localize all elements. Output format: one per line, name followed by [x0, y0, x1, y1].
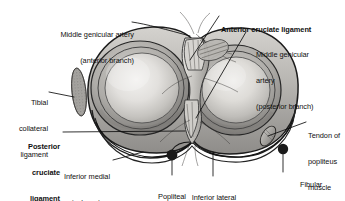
label-line: Inferior medial — [28, 173, 110, 182]
label-inferior-lateral-genicular-artery: Inferior lateral genicular artery — [170, 177, 258, 201]
label-line: Middle genicular — [256, 51, 313, 60]
leader-tibial-collateral-ligament — [49, 92, 74, 97]
label-line: (anterior branch) — [18, 57, 134, 66]
label-line: (posterior branch) — [256, 103, 313, 112]
fibular-collateral-ligament-marker-dot — [278, 144, 288, 154]
label-line: Tibial — [0, 99, 48, 108]
label-middle-genicular-artery-posterior: Middle genicular artery (posterior branc… — [256, 34, 313, 129]
popliteal-artery-marker-dot — [167, 150, 178, 161]
label-line: artery — [256, 77, 313, 86]
label-tendon-of-popliteus-muscle: Tendon of popliteus muscle — [308, 115, 340, 201]
label-line: popliteus — [308, 158, 340, 167]
anatomical-figure: Middle genicular artery (anterior branch… — [0, 0, 345, 201]
label-middle-genicular-artery-anterior: Middle genicular artery (anterior branch… — [18, 14, 134, 83]
label-line: genicular artery — [28, 199, 110, 201]
label-line: muscle — [308, 184, 340, 193]
label-line: Middle genicular artery — [18, 31, 134, 40]
label-line: Posterior — [0, 143, 60, 152]
leader-inferior-medial-genicular — [113, 152, 143, 160]
label-line: Inferior lateral — [170, 194, 258, 201]
label-line: Tendon of — [308, 132, 340, 141]
label-inferior-medial-genicular-artery: Inferior medial genicular artery — [28, 156, 110, 201]
